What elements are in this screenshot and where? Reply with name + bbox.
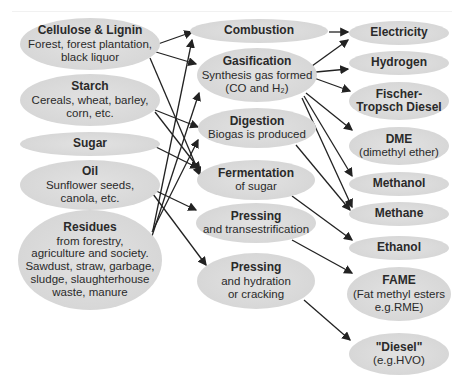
edge-gasification-to-hydrogen <box>316 69 348 72</box>
node-line: (e.g.HVO) <box>373 354 425 367</box>
process-gasification: Gasification Synthesis gas formed (CO an… <box>197 48 317 102</box>
source-residues: Residues from forestry, agriculture and … <box>18 210 162 310</box>
edge-cellulose-to-combustion <box>158 32 192 44</box>
node-title: Ethanol <box>377 241 421 254</box>
source-cellulose: Cellulose & Lignin Forest, forest planta… <box>20 18 160 70</box>
node-title: FAME <box>382 274 415 287</box>
product-electricity: Electricity <box>349 21 449 45</box>
product-diesel: "Diesel" (e.g.HVO) <box>349 333 449 375</box>
node-line: (Fat methyl esters <box>353 288 445 301</box>
node-title: Hydrogen <box>371 56 427 69</box>
node-line: Synthesis gas formed <box>202 69 313 82</box>
biofuel-pathways-diagram: Cellulose & Lignin Forest, forest planta… <box>0 0 462 385</box>
node-line: Sunflower seeds, <box>46 179 134 192</box>
node-title: Digestion <box>230 115 285 128</box>
node-title: Starch <box>71 80 108 93</box>
node-line: Biogas is produced <box>208 128 306 141</box>
node-title: Pressing <box>231 210 282 223</box>
node-line: of sugar <box>235 180 277 193</box>
source-sugar: Sugar <box>20 132 160 156</box>
product-fischer-tropsch-diesel: Fischer- Tropsch Diesel <box>349 82 449 120</box>
process-pressing-hydration: Pressing and hydration or cracking <box>197 253 315 309</box>
node-title: Methane <box>375 207 424 220</box>
product-methane: Methane <box>349 202 449 226</box>
node-line: Tropsch Diesel <box>356 101 441 114</box>
node-title: DME <box>386 133 413 146</box>
node-title: Fischer- <box>376 88 423 101</box>
edge-cellulose-to-fermentation <box>150 58 200 175</box>
node-line: and transestrification <box>203 223 309 236</box>
source-starch: Starch Cereals, wheat, barley, corn, etc… <box>20 74 160 126</box>
node-title: Fermentation <box>218 167 294 180</box>
node-title: Residues <box>63 221 116 234</box>
edge-pressing2-to-diesel <box>304 300 350 340</box>
node-line: canola, etc. <box>61 192 120 205</box>
node-line: agriculture and society. <box>31 247 148 260</box>
node-title: Combustion <box>224 24 294 37</box>
node-line: and hydration <box>221 275 291 288</box>
node-line: e.g.RME) <box>375 301 424 314</box>
node-title: Gasification <box>223 55 292 68</box>
node-title: Methanol <box>373 177 426 190</box>
node-line: Forest, forest plantation, <box>28 38 152 51</box>
edge-gasification-to-electricity <box>312 40 348 66</box>
product-fame: FAME (Fat methyl esters e.g.RME) <box>347 267 451 321</box>
edge-gasification-to-ft_diesel <box>314 78 350 91</box>
node-line: Cereals, wheat, barley, <box>32 94 149 107</box>
node-line: waste, manure <box>52 286 127 299</box>
source-oil: Oil Sunflower seeds, canola, etc. <box>20 160 160 210</box>
node-line: corn, etc. <box>66 107 113 120</box>
node-title: Electricity <box>370 26 427 39</box>
edge-cellulose-to-gasification <box>156 52 196 64</box>
edge-gasification-to-methane <box>302 98 352 207</box>
process-combustion: Combustion <box>190 19 328 43</box>
product-methanol: Methanol <box>349 172 449 196</box>
node-line: (CO and H₂) <box>225 82 288 95</box>
process-pressing-transesterification: Pressing and transestrification <box>196 203 316 243</box>
node-line: Sawdust, straw, garbage, <box>25 260 154 273</box>
product-ethanol: Ethanol <box>349 236 449 260</box>
edge-residues-to-combustion <box>153 40 192 230</box>
process-fermentation: Fermentation of sugar <box>197 160 315 200</box>
node-line: black liquor <box>61 51 119 64</box>
node-title: Oil <box>82 165 98 178</box>
node-line: sludge, slaughterhouse <box>31 273 150 286</box>
node-title: Cellulose & Lignin <box>38 24 143 37</box>
node-line: from forestry, <box>57 235 124 248</box>
node-title: Pressing <box>231 261 282 274</box>
node-line: (dimethyl ether) <box>359 146 439 159</box>
node-title: "Diesel" <box>376 341 423 354</box>
process-digestion: Digestion Biogas is produced <box>198 108 316 148</box>
node-line: or cracking <box>228 288 284 301</box>
product-dme: DME (dimethyl ether) <box>349 127 449 165</box>
product-hydrogen: Hydrogen <box>349 51 449 75</box>
node-title: Sugar <box>73 137 107 150</box>
